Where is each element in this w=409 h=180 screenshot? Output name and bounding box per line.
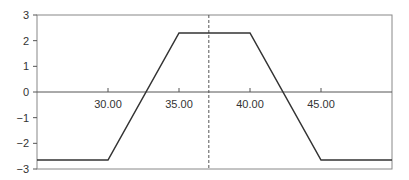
y-tick-label: −2 bbox=[16, 137, 29, 149]
y-tick-label: 1 bbox=[23, 60, 29, 72]
data-series bbox=[37, 33, 392, 160]
payoff-line bbox=[37, 33, 392, 160]
y-tick-label: −1 bbox=[16, 112, 29, 124]
y-tick-label: 0 bbox=[23, 86, 29, 98]
x-tick-label: 30.00 bbox=[94, 98, 122, 110]
x-tick-label: 45.00 bbox=[307, 98, 335, 110]
y-tick-label: 3 bbox=[23, 9, 29, 21]
y-axis: 3210−1−2−3 bbox=[16, 9, 37, 175]
y-tick-label: 2 bbox=[23, 35, 29, 47]
y-tick-label: −3 bbox=[16, 163, 29, 175]
payoff-chart: 3210−1−2−3 30.0035.0040.0045.00 bbox=[0, 0, 409, 180]
x-tick-label: 40.00 bbox=[236, 98, 264, 110]
annotations bbox=[37, 15, 392, 169]
x-axis: 30.0035.0040.0045.00 bbox=[94, 88, 335, 110]
x-tick-label: 35.00 bbox=[165, 98, 193, 110]
